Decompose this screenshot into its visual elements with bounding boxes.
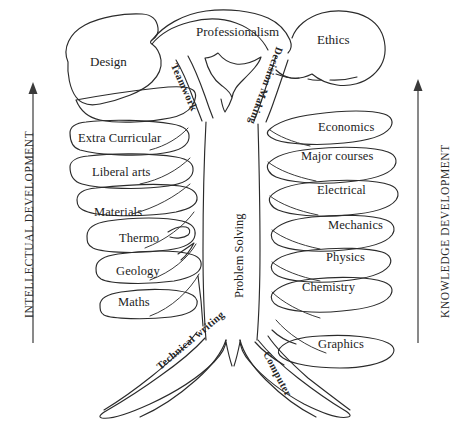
branch-label-economics: Economics <box>318 121 374 134</box>
trunk-label-problem-solving: Problem Solving <box>233 214 246 298</box>
root-shape-graphics-link <box>272 330 296 344</box>
root-shape-fork <box>226 342 240 366</box>
trunk-shape-left-edge <box>203 122 206 340</box>
root-shape-computer <box>240 340 350 417</box>
branch-vein-right-f <box>272 292 320 318</box>
root-shape-technical-writing-inner <box>104 332 226 417</box>
root-shape-technical-writing <box>100 338 226 418</box>
branch-label-liberal-arts: Liberal arts <box>92 166 150 179</box>
canopy-shape-ethics-dash-b <box>330 77 357 80</box>
branch-label-thermo: Thermo <box>119 232 159 245</box>
root-shape-maths-tail <box>198 276 203 326</box>
branch-label-materials: Materials <box>94 206 142 219</box>
canopy-label-ethics: Ethics <box>317 33 350 46</box>
branch-vein-right-c <box>270 196 318 215</box>
branch-label-mechanics: Mechanics <box>328 219 383 232</box>
branch-label-chemistry: Chemistry <box>302 281 355 294</box>
branch-label-geology: Geology <box>116 265 160 278</box>
branch-vein-right-e <box>272 262 320 281</box>
branch-label-maths: Maths <box>118 296 150 309</box>
branch-label-major-courses: Major courses <box>301 150 373 163</box>
tree-diagram: INTELLECTUAL DEVELOPMENT KNOWLEDGE DEVEL… <box>0 0 452 425</box>
branch-label-extra-curricular: Extra Curricular <box>78 132 161 145</box>
branch-label-graphics: Graphics <box>318 338 364 351</box>
canopy-shape-ethics <box>276 11 385 86</box>
trunk-shape-right-edge <box>257 124 260 340</box>
branch-vein-right-b <box>268 162 316 181</box>
left-axis-label: INTELLECTUAL DEVELOPMENT <box>24 131 36 318</box>
canopy-label-design: Design <box>90 55 127 68</box>
diagram-canvas <box>0 0 452 425</box>
right-axis-arrow <box>414 79 423 343</box>
branch-label-electrical: Electrical <box>317 184 366 197</box>
right-axis-label: KNOWLEDGE DEVELOPMENT <box>440 144 452 318</box>
canopy-label-professionalism: Professionalism <box>196 25 279 38</box>
branch-label-physics: Physics <box>326 251 365 264</box>
canopy-shape-ethics-underline <box>276 74 299 78</box>
